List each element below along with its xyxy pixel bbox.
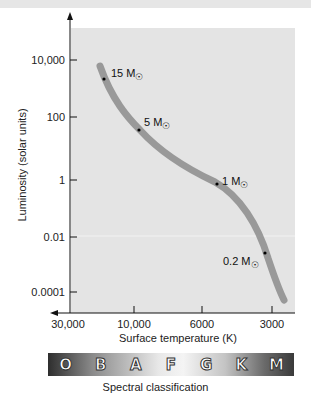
x-axis-title: Surface temperature (K): [119, 332, 237, 344]
spectral-class-b: B: [91, 356, 111, 374]
hr-diagram: 10,000 100 1 0.01 0.0001 30,000 10,000 6…: [0, 0, 311, 345]
x-axis-arrow-icon: [50, 310, 58, 316]
spectral-classification-title: Spectral classification: [0, 381, 311, 393]
y-tick-label: 10,000: [31, 54, 65, 66]
spectral-class-bar: O B A F G K M: [48, 353, 294, 376]
y-tick-label: 0.0001: [31, 286, 65, 298]
y-tick-label: 0.01: [44, 231, 65, 243]
x-tick-label: 30,000: [51, 318, 85, 330]
y-axis-title: Luminosity (solar units): [16, 108, 28, 221]
x-tick-label: 6000: [190, 318, 214, 330]
spectral-class-f: F: [161, 356, 181, 374]
x-tick-label: 3000: [260, 318, 284, 330]
spectral-class-k: K: [231, 356, 251, 374]
y-tick-label: 1: [59, 174, 65, 186]
x-tick-label: 10,000: [117, 318, 151, 330]
y-tick-label: 100: [47, 111, 65, 123]
spectral-class-m: M: [266, 356, 286, 374]
spectral-class-o: O: [56, 356, 76, 374]
y-axis-arrow-icon: [67, 12, 73, 20]
spectral-class-a: A: [126, 356, 146, 374]
spectral-class-g: G: [196, 356, 216, 374]
